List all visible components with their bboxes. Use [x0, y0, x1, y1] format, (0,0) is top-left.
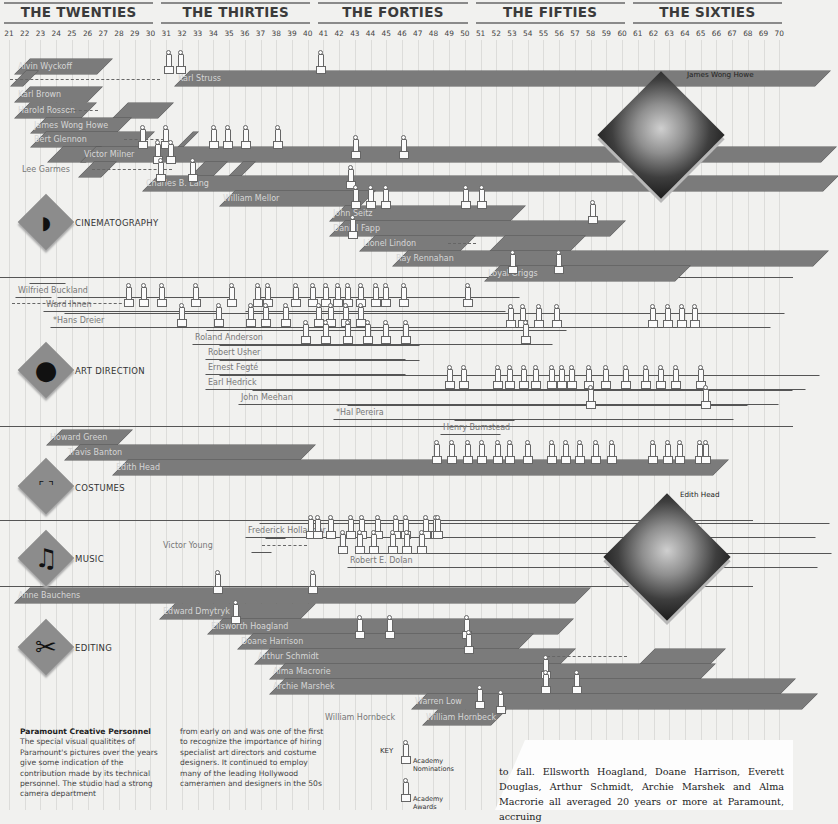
- year-tick-label: 68: [741, 29, 755, 38]
- year-tick-label: 46: [395, 29, 409, 38]
- personnel-bar: [15, 588, 590, 603]
- oscar-icon: [345, 515, 354, 538]
- oscar-icon: [476, 185, 485, 208]
- year-tick-label: 29: [128, 29, 142, 38]
- person-label: Victor Milner: [84, 147, 134, 162]
- oscar-icon: [507, 250, 516, 273]
- person-label: Howard Green: [50, 430, 107, 445]
- person-label: Ellsworth Hoagland: [211, 619, 288, 634]
- gridline: [40, 40, 41, 810]
- person-label: William Hornbeck: [426, 710, 496, 725]
- year-tick-label: 22: [18, 29, 32, 38]
- oscar-icon: [245, 303, 254, 326]
- key-title: KEY: [380, 748, 393, 756]
- oscar-icon: [518, 365, 527, 388]
- oscar-icon: [600, 365, 609, 388]
- gridline: [25, 40, 26, 810]
- personnel-bar: [393, 251, 828, 266]
- oscar-icon: [387, 530, 396, 553]
- year-tick-label: 61: [631, 29, 645, 38]
- gridline: [9, 40, 10, 810]
- person-label: Ray Rennahan: [396, 251, 454, 266]
- year-tick-label: 55: [536, 29, 550, 38]
- year-tick-label: 30: [143, 29, 157, 38]
- decade-label: THE SIXTIES: [631, 0, 784, 24]
- key-nomination-oscar-icon: [400, 740, 409, 763]
- year-tick-label: 24: [49, 29, 63, 38]
- person-label: Robert E. Dolan: [350, 553, 412, 568]
- oscar-icon: [431, 440, 440, 463]
- year-tick-label: 43: [348, 29, 362, 38]
- oscar-icon: [315, 50, 324, 73]
- year-tick-label: 38: [269, 29, 283, 38]
- oscar-icon: [354, 530, 363, 553]
- category-label-art-direction: ART DIRECTION: [75, 366, 145, 376]
- oscar-icon: [337, 530, 346, 553]
- year-tick-label: 69: [757, 29, 771, 38]
- year-tick-label: 33: [191, 29, 205, 38]
- person-label: *Hans Dreier: [53, 313, 104, 328]
- intro-note-col1: Paramount Creative Personnel The special…: [20, 727, 170, 800]
- category-label-music: MUSIC: [75, 554, 104, 564]
- oscar-icon: [370, 283, 379, 306]
- gap-dash: [262, 545, 307, 546]
- oscar-icon: [492, 365, 501, 388]
- oscar-icon: [163, 50, 172, 73]
- oscar-icon: [670, 365, 679, 388]
- oscar-icon: [566, 365, 575, 388]
- person-label: Robert Usher: [208, 345, 260, 360]
- year-tick-label: 37: [254, 29, 268, 38]
- person-label: Earl Hedrick: [208, 375, 257, 390]
- oscar-icon: [432, 515, 441, 538]
- oscar-icon: [551, 304, 560, 327]
- oscar-icon: [312, 515, 321, 538]
- note-title: Paramount Creative Personnel: [20, 727, 151, 736]
- personnel-bar: [347, 553, 832, 568]
- year-tick-label: 31: [159, 29, 173, 38]
- oscar-icon: [208, 125, 217, 148]
- oscar-icon: [504, 440, 513, 463]
- oscar-icon: [553, 250, 562, 273]
- gap-dash: [547, 656, 627, 657]
- category-label-cinematography: CINEMATOGRAPHY: [75, 218, 158, 228]
- oscar-icon: [590, 440, 599, 463]
- oscar-icon: [290, 283, 299, 306]
- year-tick-label: 51: [474, 29, 488, 38]
- year-tick-label: 27: [96, 29, 110, 38]
- personnel-bar: [50, 313, 785, 328]
- oscar-icon: [280, 303, 289, 326]
- year-tick-label: 35: [222, 29, 236, 38]
- personnel-bar: [270, 664, 715, 679]
- year-tick-label: 54: [521, 29, 535, 38]
- oscar-icon: [176, 303, 185, 326]
- oscar-icon: [530, 365, 539, 388]
- oscar-icon: [463, 630, 472, 653]
- oscar-icon: [137, 125, 146, 148]
- year-tick-label: 39: [285, 29, 299, 38]
- person-label: Lionel Lindon: [363, 236, 416, 251]
- year-tick-label: 60: [615, 29, 629, 38]
- year-tick-label: 64: [678, 29, 692, 38]
- decade-label: THE THIRTIES: [159, 0, 312, 24]
- decade-label: THE FORTIES: [316, 0, 469, 24]
- oscar-icon: [446, 440, 455, 463]
- person-label-victor-young: Victor Young: [163, 538, 213, 553]
- oscar-icon: [647, 440, 656, 463]
- palette-icon: ●: [18, 342, 74, 398]
- person-label: Travis Banton: [68, 445, 122, 460]
- oscar-icon: [505, 304, 514, 327]
- year-tick-label: 53: [505, 29, 519, 38]
- oscar-icon: [230, 600, 239, 623]
- oscar-icon: [571, 670, 580, 693]
- year-tick-label: 63: [662, 29, 676, 38]
- oscar-icon: [416, 530, 425, 553]
- gap-dash: [12, 303, 132, 304]
- oscar-icon: [689, 304, 698, 327]
- category-label-editing: EDITING: [75, 643, 112, 653]
- year-tick-label: 40: [301, 29, 315, 38]
- person-label: Warren Low: [415, 694, 462, 709]
- personnel-bar: [113, 103, 173, 118]
- person-label: Bert Glennon: [34, 132, 87, 147]
- oscar-icon: [662, 304, 671, 327]
- oscar-icon: [365, 185, 374, 208]
